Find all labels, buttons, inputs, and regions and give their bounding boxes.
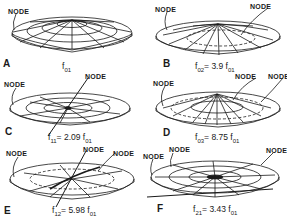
frequency-label: f01 (62, 61, 71, 73)
freq-base-subscript: 01 (231, 210, 238, 216)
mode-panel-a: NODE A f01 (0, 0, 143, 72)
freq-base-subscript: 01 (85, 138, 92, 144)
node-label: NODE (4, 81, 25, 88)
node-label: NODE (6, 150, 27, 157)
node-label: NODE (143, 153, 164, 160)
freq-ratio: = 5.98 f (61, 205, 90, 215)
freq-ratio: = 8.75 f (204, 132, 233, 142)
node-label: NODE (169, 146, 190, 153)
node-label: NODE (8, 8, 29, 15)
panel-letter: D (163, 127, 170, 138)
node-label: NODE (153, 80, 174, 87)
node-label: NODE (113, 150, 134, 157)
mode-panel-e: NODE NODE NODE E f12= 5.98 f01 (0, 145, 143, 220)
freq-ratio: = 3.43 f (202, 204, 231, 214)
mode-panel-b: NODE NODE B f02= 3.9 f01 (143, 0, 287, 72)
node-label: NODE (268, 73, 287, 80)
freq-ratio: = 2.09 f (57, 132, 86, 142)
panel-letter: A (3, 58, 10, 69)
frequency-label: f11= 2.09 f01 (48, 132, 92, 144)
node-label: NODE (85, 73, 106, 80)
freq-base-subscript: 01 (233, 138, 240, 144)
mode-panel-d: NODE NODE NODE D f03= 8.75 f01 (143, 72, 287, 145)
node-label: NODE (83, 146, 104, 153)
node-label: NODE (155, 6, 176, 13)
panel-letter: F (157, 203, 163, 214)
panel-letter: B (163, 58, 170, 69)
freq-ratio: = 3.9 f (204, 61, 228, 71)
frequency-label: f12= 5.98 f01 (52, 205, 96, 217)
mode-panel-c: NODE NODE C f11= 2.09 f01 (0, 72, 143, 145)
mode-panel-f: NODE NODE NODE F f21= 3.43 f01 (143, 145, 287, 220)
frequency-label: f03= 8.75 f01 (195, 132, 239, 144)
frequency-label: f21= 3.43 f01 (193, 204, 237, 216)
panel-letter: C (5, 126, 12, 137)
freq-base-subscript: 01 (90, 211, 97, 217)
node-label: NODE (250, 3, 271, 10)
node-label: NODE (235, 73, 256, 80)
frequency-label: f02= 3.9 f01 (195, 61, 235, 73)
node-label: NODE (266, 147, 287, 154)
panel-letter: E (4, 205, 11, 216)
